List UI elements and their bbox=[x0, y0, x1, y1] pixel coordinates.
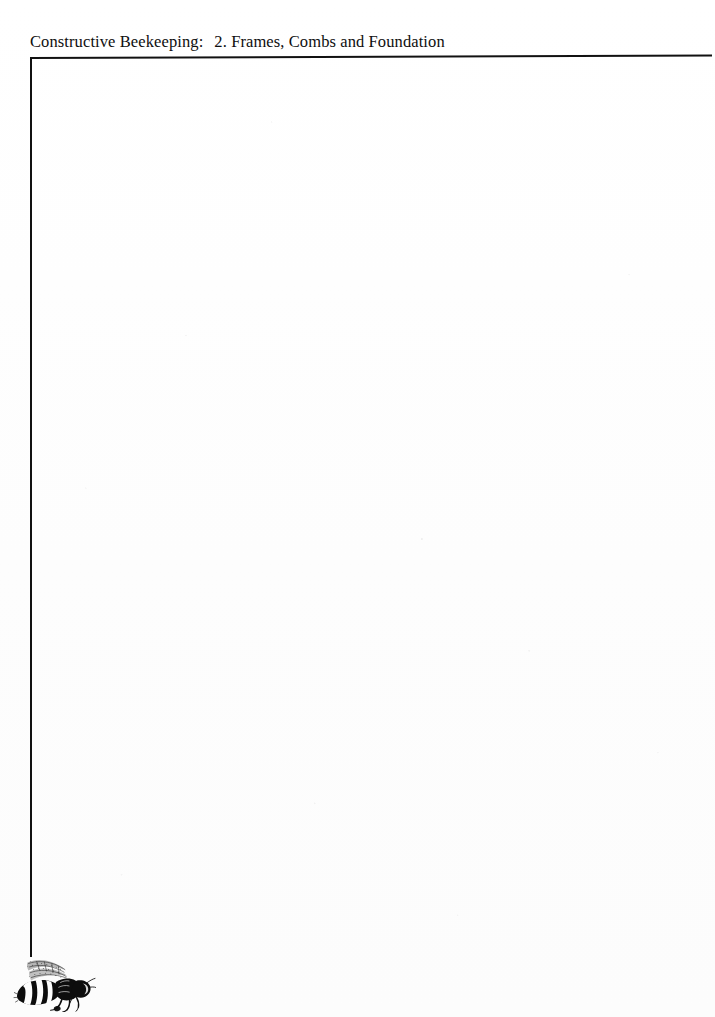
page-body bbox=[46, 74, 696, 944]
running-head-book-title: Constructive Beekeeping: bbox=[30, 32, 203, 51]
header-rule bbox=[30, 54, 712, 58]
left-margin-rule bbox=[30, 58, 32, 957]
honeybee-illustration bbox=[12, 954, 96, 1012]
running-head: Constructive Beekeeping:2. Frames, Combs… bbox=[30, 30, 670, 54]
running-head-chapter: 2. Frames, Combs and Foundation bbox=[214, 32, 444, 51]
scanned-page: Constructive Beekeeping:2. Frames, Combs… bbox=[0, 0, 715, 1017]
